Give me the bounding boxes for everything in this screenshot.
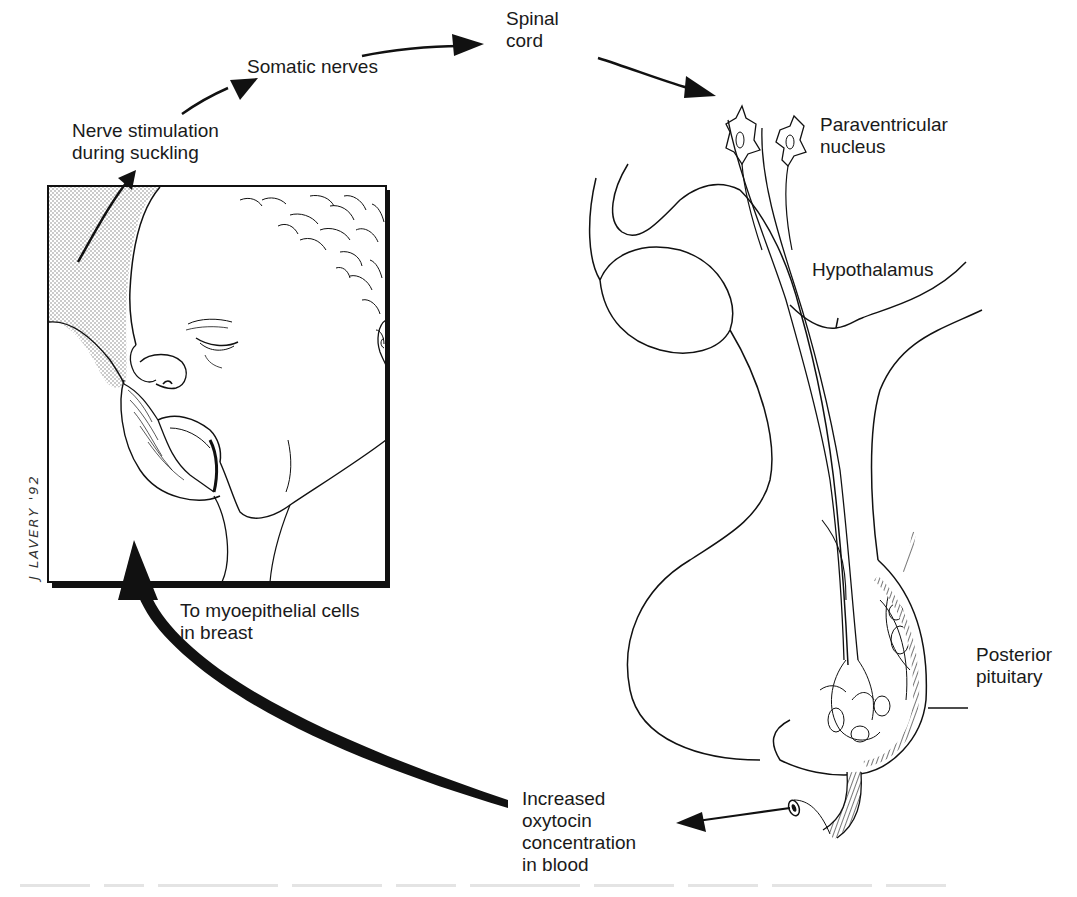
label-to-myoepithelial-cells: To myoepithelial cells in breast — [180, 600, 360, 644]
label-spinal-cord: Spinal cord — [506, 8, 559, 52]
label-nerve-stimulation: Nerve stimulation during suckling — [72, 120, 219, 164]
label-paraventricular-nucleus: Paraventricular nucleus — [820, 114, 948, 158]
infant-suckling-panel — [48, 186, 390, 588]
label-somatic-nerves: Somatic nerves — [247, 56, 378, 78]
label-posterior-pituitary: Posterior pituitary — [976, 644, 1052, 688]
faded-caption-line — [20, 876, 1060, 890]
label-hypothalamus: Hypothalamus — [812, 259, 933, 281]
hypophyseal-vein — [787, 772, 862, 838]
oxytocin-reflex-diagram: Nerve stimulation during suckling Somati… — [0, 0, 1077, 897]
hypothalamus-pituitary-drawing — [590, 106, 982, 775]
artist-signature: J LAVERY '92 — [26, 474, 41, 580]
label-increased-oxytocin: Increased oxytocin concentration in bloo… — [522, 788, 636, 876]
